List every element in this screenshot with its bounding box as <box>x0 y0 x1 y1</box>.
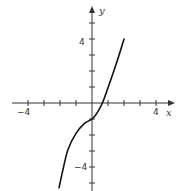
y-tick-label-4: 4 <box>79 37 85 47</box>
axes <box>12 6 175 191</box>
function-graph: x y −4 4 4 −4 <box>0 0 176 191</box>
y-axis-label: y <box>98 5 105 16</box>
x-axis-arrow-icon <box>168 100 175 106</box>
y-axis-arrow-icon <box>89 6 95 13</box>
x-tick-label-neg4: −4 <box>17 107 31 117</box>
y-tick-label-neg4: −4 <box>74 162 88 172</box>
x-tick-label-4: 4 <box>153 107 159 117</box>
x-axis-label: x <box>166 107 172 118</box>
